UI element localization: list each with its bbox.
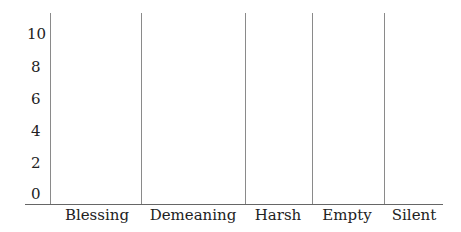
x-category-label: Silent <box>386 206 442 224</box>
y-tick-label: 0 <box>31 186 51 202</box>
y-tick-label: 8 <box>31 59 51 75</box>
column-divider <box>384 13 385 205</box>
y-axis-line <box>50 13 51 205</box>
blank-bar-chart: 10 8 6 4 2 0 Blessing Demeaning Harsh Em… <box>0 0 461 232</box>
y-tick-label: 2 <box>31 155 51 171</box>
x-category-label: Harsh <box>248 206 308 224</box>
x-category-label: Empty <box>314 206 380 224</box>
column-divider <box>312 13 313 205</box>
y-tick-label: 6 <box>31 91 51 107</box>
column-divider <box>141 13 142 205</box>
x-category-label: Blessing <box>62 206 132 224</box>
column-divider <box>245 13 246 205</box>
y-tick-label: 4 <box>31 123 51 139</box>
x-category-label: Demeaning <box>144 206 242 224</box>
x-axis-line <box>25 204 443 205</box>
y-tick-label: 10 <box>27 26 47 42</box>
